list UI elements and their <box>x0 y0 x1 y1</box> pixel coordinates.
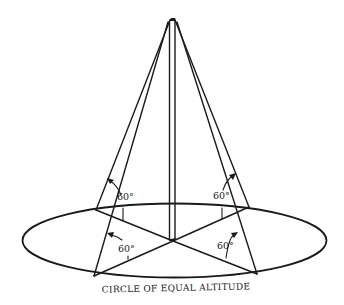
circle-of-equal-altitude-diagram: 60° 60° 60° 60° CIRCLE OF EQUAL ALTITUDE <box>0 0 344 305</box>
angle-label-front-left: 60° <box>118 243 135 254</box>
arrowhead-icon <box>229 173 236 180</box>
angle-label-back-right: 60° <box>213 190 230 201</box>
arrowhead-icon <box>107 232 114 238</box>
vertical-pole <box>169 18 176 240</box>
diagram-caption: CIRCLE OF EQUAL ALTITUDE <box>102 281 251 294</box>
angle-label-front-right: 60° <box>217 240 234 251</box>
angle-label-back-left: 60° <box>117 191 134 202</box>
